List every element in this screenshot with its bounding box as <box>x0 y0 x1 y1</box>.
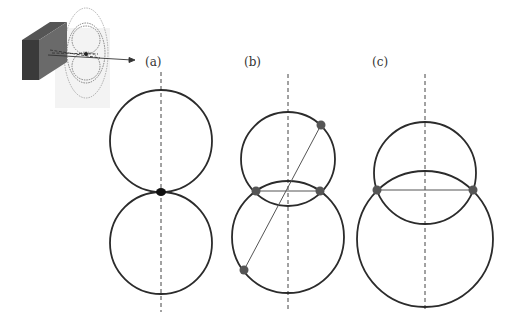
point-b-4 <box>240 266 249 275</box>
panel-c: (c) <box>357 55 493 312</box>
circle-a-top <box>110 90 212 192</box>
panel-a: (a) <box>110 55 212 312</box>
panel-b: (b) <box>232 55 344 312</box>
chord-b-diagonal <box>244 125 321 270</box>
panel-a-label: (a) <box>145 55 162 69</box>
point-c-left <box>373 186 382 195</box>
diagram-canvas: (a) (b) (c) <box>0 0 511 326</box>
panel-c-label: (c) <box>372 55 388 69</box>
inset-focus-point <box>84 52 88 56</box>
inset-illustration <box>22 8 135 108</box>
panel-b-label: (b) <box>244 55 261 69</box>
point-b-1 <box>317 121 326 130</box>
point-b-3 <box>316 187 325 196</box>
point-b-2 <box>252 187 261 196</box>
point-c-right <box>469 186 478 195</box>
contact-point-a <box>156 188 166 196</box>
block-front <box>22 40 39 80</box>
